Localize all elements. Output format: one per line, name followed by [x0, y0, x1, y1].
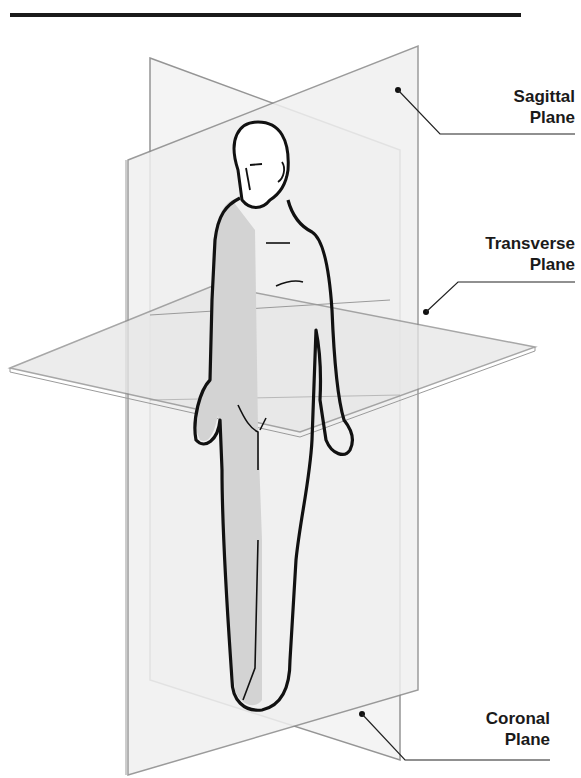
transverse-leader — [423, 282, 575, 315]
label-line1: Transverse — [485, 233, 575, 254]
label-transverse-plane: Transverse Plane — [485, 233, 575, 275]
label-line2: Plane — [486, 729, 550, 750]
label-line2: Plane — [485, 254, 575, 275]
transverse-plane — [10, 285, 535, 437]
label-line2: Plane — [514, 107, 575, 128]
label-line1: Sagittal — [514, 86, 575, 107]
label-coronal-plane: Coronal Plane — [486, 708, 550, 750]
anatomical-planes-diagram — [0, 0, 581, 778]
label-sagittal-plane: Sagittal Plane — [514, 86, 575, 128]
label-line1: Coronal — [486, 708, 550, 729]
